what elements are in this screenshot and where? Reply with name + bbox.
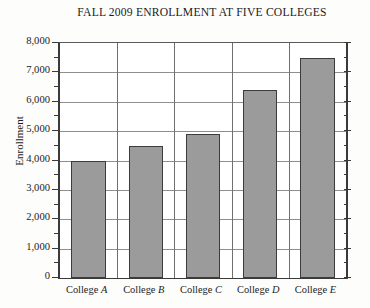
y-axis-title: Enrollment — [13, 96, 25, 186]
y-tick-label: 6,000 — [4, 94, 50, 105]
y-tick-label: 3,000 — [4, 182, 50, 193]
y-tick-label: 4,000 — [4, 153, 50, 164]
axis-tick — [52, 160, 59, 161]
axis-tick — [54, 115, 59, 116]
plot-area — [58, 42, 348, 279]
axis-tick — [344, 57, 349, 58]
x-tick-label: College B — [115, 284, 172, 295]
axis-tick — [344, 115, 349, 116]
x-tick-label: College D — [230, 284, 287, 295]
axis-tick — [52, 71, 59, 72]
axis-tick — [344, 71, 351, 72]
axis-tick — [344, 204, 349, 205]
axis-tick — [54, 204, 59, 205]
category-divider — [117, 43, 118, 278]
chart-title: FALL 2009 ENROLLMENT AT FIVE COLLEGES — [52, 6, 352, 19]
y-tick-label: 8,000 — [4, 35, 50, 46]
bar — [186, 134, 220, 278]
y-tick-label: 0 — [4, 270, 50, 281]
y-tick-label: 1,000 — [4, 241, 50, 252]
axis-tick — [344, 145, 349, 146]
axis-tick — [54, 57, 59, 58]
axis-tick — [344, 218, 351, 219]
axis-tick — [344, 262, 349, 263]
axis-tick — [52, 130, 59, 131]
axis-tick — [54, 145, 59, 146]
x-tick-label: College C — [172, 284, 229, 295]
axis-tick — [54, 174, 59, 175]
axis-tick — [54, 233, 59, 234]
axis-tick — [344, 42, 351, 43]
axis-tick — [344, 101, 351, 102]
axis-tick — [344, 277, 351, 278]
axis-tick — [344, 189, 351, 190]
bar-chart: FALL 2009 ENROLLMENT AT FIVE COLLEGES En… — [0, 0, 370, 308]
bar — [243, 90, 277, 278]
axis-tick — [344, 86, 349, 87]
x-tick-label: College A — [58, 284, 115, 295]
category-divider — [174, 43, 175, 278]
axis-tick — [52, 218, 59, 219]
y-tick-label: 5,000 — [4, 123, 50, 134]
axis-tick — [344, 248, 351, 249]
axis-tick — [52, 277, 59, 278]
axis-tick — [344, 174, 349, 175]
axis-tick — [54, 86, 59, 87]
category-divider — [232, 43, 233, 278]
y-tick-label: 7,000 — [4, 64, 50, 75]
axis-tick — [344, 130, 351, 131]
axis-tick — [52, 42, 59, 43]
axis-tick — [344, 160, 351, 161]
axis-tick — [54, 262, 59, 263]
category-divider — [289, 43, 290, 278]
y-tick-label: 2,000 — [4, 211, 50, 222]
axis-tick — [52, 248, 59, 249]
bar — [71, 161, 105, 279]
bar — [129, 146, 163, 278]
axis-tick — [344, 233, 349, 234]
bar — [300, 58, 334, 278]
plot-inner — [60, 43, 346, 278]
axis-tick — [52, 101, 59, 102]
x-tick-label: College E — [287, 284, 344, 295]
axis-tick — [52, 189, 59, 190]
